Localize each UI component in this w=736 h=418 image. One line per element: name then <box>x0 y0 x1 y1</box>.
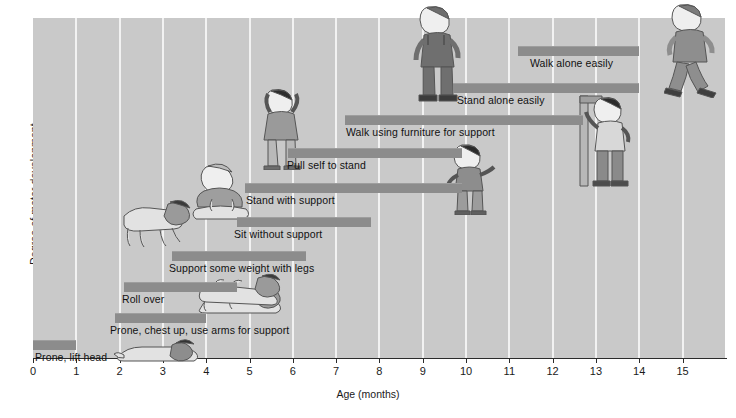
x-tick-label-15: 15 <box>668 365 698 377</box>
x-tick-0 <box>33 358 34 363</box>
x-tick-6 <box>293 358 294 363</box>
x-tick-label-2: 2 <box>105 365 135 377</box>
x-axis-title: Age (months) <box>0 388 736 400</box>
milestone-label: Pull self to stand <box>287 159 366 171</box>
x-tick-5 <box>250 358 251 363</box>
x-tick-label-4: 4 <box>191 365 221 377</box>
x-tick-label-11: 11 <box>494 365 524 377</box>
x-tick-label-5: 5 <box>235 365 265 377</box>
x-tick-label-13: 13 <box>581 365 611 377</box>
milestone-bar <box>345 115 583 125</box>
milestone-label: Prone, chest up, use arms for support <box>110 324 289 336</box>
milestone-label: Sit without support <box>234 228 322 240</box>
toddler-walking-alone <box>664 2 722 98</box>
gridline-month-11 <box>508 18 510 358</box>
motor-development-chart: Degree of motor development 012345678910… <box>0 0 736 418</box>
x-tick-9 <box>423 358 424 363</box>
milestone-bar <box>518 46 639 56</box>
milestone-bar <box>453 83 639 93</box>
x-tick-12 <box>553 358 554 363</box>
gridline-month-13 <box>595 18 597 358</box>
milestone-label: Roll over <box>122 293 164 305</box>
gridline-month-14 <box>638 18 640 358</box>
gridline-month-3 <box>162 18 164 358</box>
gridline-month-2 <box>119 18 121 358</box>
gridline-month-12 <box>552 18 554 358</box>
gridline-month-1 <box>75 18 77 358</box>
x-tick-label-0: 0 <box>18 365 48 377</box>
x-tick-label-6: 6 <box>278 365 308 377</box>
x-tick-13 <box>596 358 597 363</box>
milestone-label: Walk alone easily <box>530 57 613 69</box>
x-tick-11 <box>509 358 510 363</box>
x-tick-15 <box>683 358 684 363</box>
x-tick-label-1: 1 <box>61 365 91 377</box>
x-tick-label-7: 7 <box>321 365 351 377</box>
milestone-label: Walk using furniture for support <box>346 126 495 138</box>
milestone-bar <box>245 183 462 193</box>
x-tick-label-9: 9 <box>408 365 438 377</box>
infant-crawling <box>110 198 196 250</box>
infant-sitting <box>192 163 254 225</box>
x-tick-label-10: 10 <box>451 365 481 377</box>
milestone-bar <box>33 340 76 350</box>
x-tick-label-3: 3 <box>148 365 178 377</box>
x-tick-7 <box>336 358 337 363</box>
milestone-bar <box>172 251 306 261</box>
x-tick-label-12: 12 <box>538 365 568 377</box>
toddler-cruising-furniture <box>578 92 634 188</box>
x-tick-10 <box>466 358 467 363</box>
milestone-bar <box>288 148 461 158</box>
x-tick-8 <box>379 358 380 363</box>
milestone-label: Prone, lift head <box>35 351 107 363</box>
infant-prone-lift-head <box>112 333 208 363</box>
milestone-label: Stand with support <box>246 194 335 206</box>
milestone-bar <box>115 313 206 323</box>
milestone-label: Support some weight with legs <box>169 262 314 274</box>
x-tick-label-14: 14 <box>624 365 654 377</box>
x-tick-label-8: 8 <box>364 365 394 377</box>
milestone-bar <box>124 282 237 292</box>
x-tick-14 <box>639 358 640 363</box>
milestone-label: Stand alone easily <box>457 94 545 106</box>
milestone-bar <box>237 217 371 227</box>
